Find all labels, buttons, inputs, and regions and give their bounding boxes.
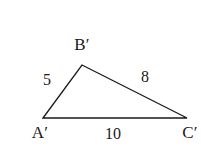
- side-length-label-bc: 8: [141, 69, 149, 85]
- vertex-label-b: B′: [74, 36, 90, 53]
- vertex-label-c: C′: [182, 124, 198, 141]
- side-length-label-ac: 10: [105, 126, 121, 142]
- triangle-polygon: [43, 65, 187, 118]
- vertex-label-a: A′: [32, 124, 49, 141]
- triangle-figure: B′ A′ C′ 5 8 10: [0, 0, 211, 163]
- side-length-label-ab: 5: [43, 72, 51, 88]
